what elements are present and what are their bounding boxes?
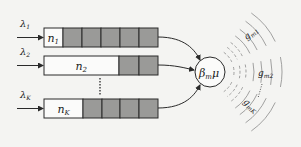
channel-label-k: gmK [241,96,261,115]
queue-cell [120,99,139,118]
queue-cell [102,99,120,118]
queue-1: λ1n1 [17,18,158,47]
queue-cell [63,28,82,47]
queue-cell [119,56,139,75]
queue-diagram: λ1n1λ2n2λKnK βmμ gm1 gm2 gmK [0,0,301,147]
arrival-rate-label: λ2 [19,46,30,58]
queue-cell [82,28,101,47]
queue-cell [101,28,120,47]
flow-arrow-1 [158,37,200,60]
queue-cell [139,28,158,47]
arrival-rate-label: λ1 [19,18,30,30]
queue-cell [83,99,102,118]
queue-cell [139,99,158,118]
flow-arrow-k [158,85,200,108]
queue-3: λKnK [17,89,158,118]
arrival-rate-label: λK [19,89,31,101]
channel-label-2: gm2 [258,68,273,79]
queue-cell [139,56,158,75]
queue-2: λ2n2 [17,46,158,75]
queue-cell [120,28,139,47]
flow-arrow-2 [158,65,194,70]
channel-ellipsis [258,84,262,98]
